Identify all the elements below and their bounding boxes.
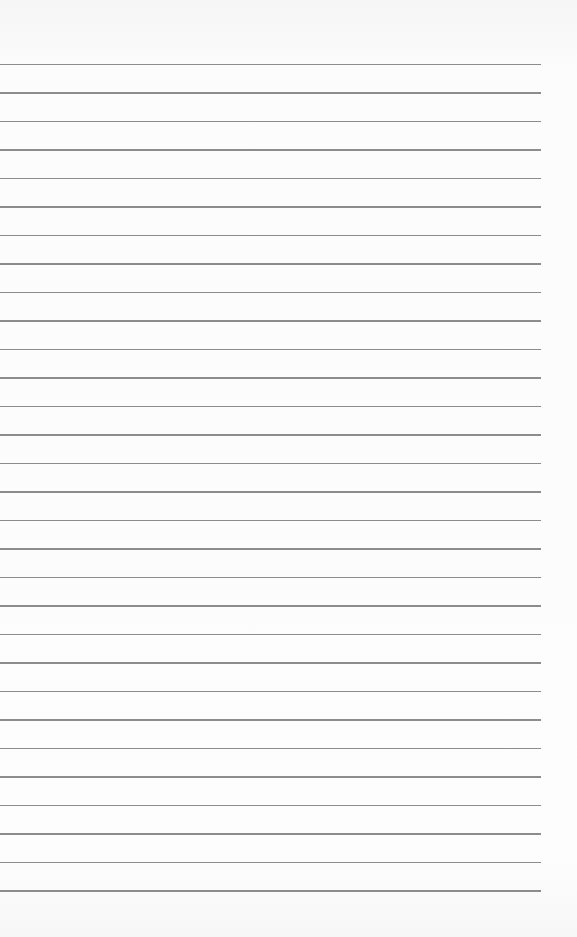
ruled-line [0,862,541,864]
ruled-line [0,320,541,322]
ruled-line [0,92,541,94]
ruled-line [0,178,541,180]
ruled-line [0,434,541,436]
lined-paper [0,0,577,937]
ruled-line [0,292,541,294]
ruled-line [0,776,541,778]
ruled-line [0,491,541,493]
ruled-line [0,263,541,265]
ruled-line [0,520,541,522]
ruled-line [0,206,541,208]
ruled-line [0,149,541,151]
ruled-line [0,121,541,123]
ruled-line [0,691,541,693]
ruled-line [0,235,541,237]
ruled-line [0,890,541,892]
ruled-line [0,634,541,636]
ruled-line [0,548,541,550]
ruled-line [0,406,541,408]
ruled-line [0,577,541,579]
ruled-line [0,662,541,664]
ruled-line [0,748,541,750]
ruled-line [0,377,541,379]
ruled-line [0,64,541,66]
ruled-line [0,833,541,835]
ruled-line [0,463,541,465]
ruled-line [0,719,541,721]
ruled-line [0,605,541,607]
ruled-line [0,349,541,351]
ruled-line [0,805,541,807]
